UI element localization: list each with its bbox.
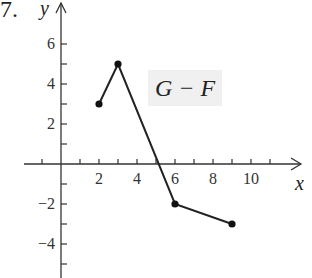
x-axis-label: x	[294, 172, 304, 194]
x-tick-label: 2	[95, 170, 103, 187]
function-graph: 246810642−2−4 x y	[0, 0, 312, 278]
y-tick-label: −4	[38, 235, 55, 252]
y-tick-label: 2	[47, 115, 55, 132]
function-label: G − F	[148, 70, 222, 106]
y-tick-label: −2	[38, 195, 55, 212]
data-point	[171, 200, 178, 207]
y-tick-label: 6	[47, 35, 55, 52]
y-tick-label: 4	[47, 75, 55, 92]
tick-labels: 246810642−2−4	[38, 35, 259, 252]
y-axis-label: y	[38, 0, 49, 20]
data-point	[95, 100, 102, 107]
data-point	[228, 220, 235, 227]
data-point	[114, 60, 121, 67]
x-tick-label: 10	[243, 170, 259, 187]
x-tick-label: 6	[171, 170, 179, 187]
x-tick-label: 4	[133, 170, 141, 187]
x-tick-label: 8	[209, 170, 217, 187]
